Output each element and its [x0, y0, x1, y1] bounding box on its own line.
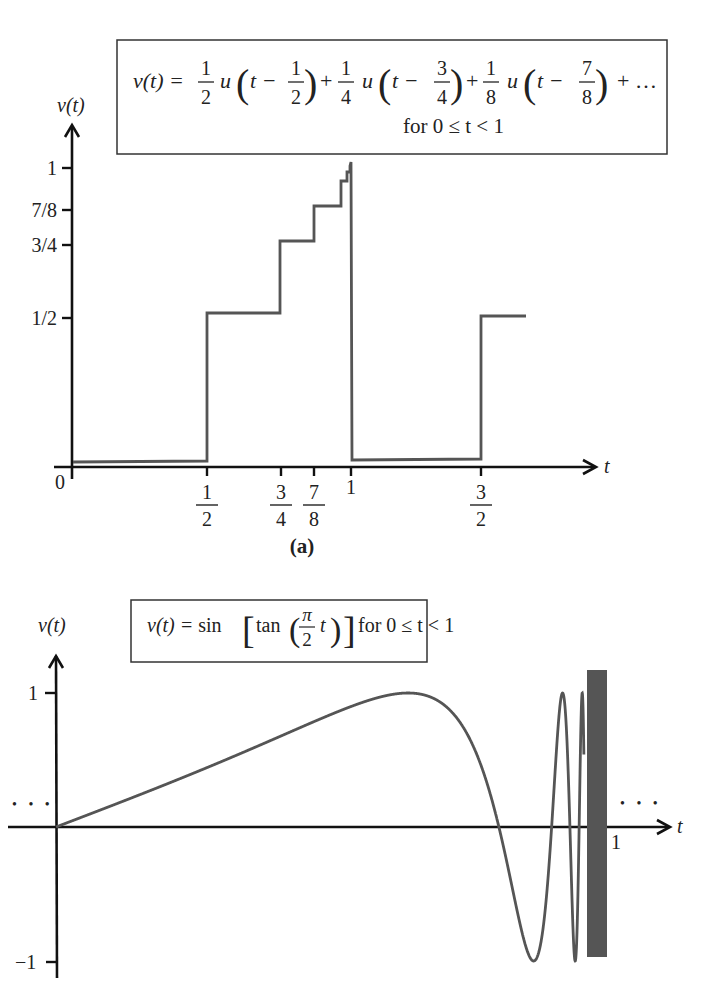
paren-open: ( — [289, 611, 300, 649]
x-tick-num: 3 — [476, 481, 486, 503]
pi-num: π — [302, 604, 312, 625]
arg-den: 2 — [291, 86, 301, 108]
x-tick-den: 4 — [276, 508, 286, 530]
origin-label: 0 — [55, 471, 65, 493]
arg-num: 3 — [437, 57, 447, 79]
y-tick-label-neg1: −1 — [15, 951, 36, 973]
formula-b-lhs: v(t) = sin — [147, 614, 222, 637]
coef-num: 1 — [201, 57, 211, 79]
paren-close: ) — [595, 61, 608, 106]
panel-b: v(t) = sin [ tan ( π 2 t ) ] for 0 ≤ t <… — [8, 600, 683, 978]
tan-label: tan — [256, 614, 280, 636]
y-tick-label: 3/4 — [31, 234, 57, 256]
panel-a: v(t) = 1 2 u ( t − 1 2 ) + 1 4 u ( t − 3… — [31, 40, 667, 558]
y-axis-label-a: v(t) — [57, 94, 85, 117]
formula-tail: + … — [617, 68, 657, 93]
paren-close: ) — [304, 61, 317, 106]
figure: v(t) = 1 2 u ( t − 1 2 ) + 1 4 u ( t − 3… — [0, 0, 702, 986]
paren-close: ) — [450, 61, 463, 106]
func-u: u — [220, 68, 231, 93]
coef-den: 8 — [486, 86, 496, 108]
y-tick-label: 7/8 — [31, 199, 57, 221]
y-axis-label-b: v(t) — [38, 614, 66, 637]
x-ticks-a: 123478132 — [196, 467, 492, 530]
y-tick-label: 1 — [47, 157, 57, 179]
x-tick-num: 7 — [309, 481, 319, 503]
plus: + — [320, 68, 332, 93]
coef-den: 4 — [341, 86, 351, 108]
x-tick-num: 1 — [202, 481, 212, 503]
paren-open: ( — [523, 61, 536, 106]
pi-den: 2 — [302, 629, 312, 650]
formula-b-domain: for 0 ≤ t < 1 — [358, 614, 454, 636]
x-tick-num: 3 — [276, 481, 286, 503]
y-tick-label-1: 1 — [28, 682, 38, 704]
coef-num: 1 — [341, 57, 351, 79]
paren-open: ( — [236, 61, 249, 106]
x-axis-label-a: t — [604, 455, 610, 477]
ellipsis-right: • • • — [620, 796, 662, 811]
caption-a: (a) — [290, 534, 315, 558]
bracket-close: ] — [343, 609, 356, 651]
y-axis-b — [56, 656, 57, 978]
arg-den: 4 — [437, 86, 447, 108]
step-signal — [73, 162, 526, 462]
x-tick-label-1: 1 — [611, 831, 621, 853]
y-ticks-a: 17/83/41/2 — [31, 157, 72, 329]
bracket-open: [ — [242, 609, 255, 651]
func-u: u — [362, 68, 373, 93]
plus: + — [466, 68, 478, 93]
y-tick-label: 1/2 — [31, 307, 57, 329]
paren-close: ) — [330, 611, 341, 649]
x-axis-label-b: t — [677, 815, 683, 837]
x-tick-label: 1 — [346, 476, 356, 498]
ellipsis-left: • • • — [12, 797, 54, 812]
arg-num: 1 — [291, 57, 301, 79]
coef-num: 1 — [486, 57, 496, 79]
x-tick-den: 2 — [476, 508, 486, 530]
paren-open: ( — [378, 61, 391, 106]
arg-pre: t − — [392, 68, 418, 93]
coef-den: 2 — [201, 86, 211, 108]
arg-pre: t − — [250, 68, 276, 93]
func-u: u — [507, 68, 518, 93]
var-t: t — [320, 614, 326, 636]
formula-domain: for 0 ≤ t < 1 — [403, 114, 504, 138]
formula-lhs: v(t) = — [133, 68, 184, 93]
x-tick-den: 8 — [309, 508, 319, 530]
arg-num: 7 — [582, 57, 592, 79]
x-tick-den: 2 — [202, 508, 212, 530]
dense-oscillation-band — [587, 670, 607, 957]
arg-den: 8 — [582, 86, 592, 108]
arg-pre: t − — [537, 68, 563, 93]
